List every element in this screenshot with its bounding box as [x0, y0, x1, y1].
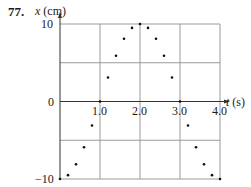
x-axis-var: t	[226, 95, 229, 109]
x-axis-label: t (s)	[226, 95, 245, 110]
y-tick-neg10: −10	[35, 172, 54, 187]
x-tick-2: 2.0	[132, 104, 147, 119]
x-axis-unit: (s)	[232, 95, 245, 109]
y-axis-var: x	[35, 4, 40, 18]
problem-number: 77.	[8, 4, 24, 20]
y-axis-unit: (cm)	[43, 4, 66, 18]
y-tick-10: 10	[41, 17, 53, 32]
chart-plot-area	[0, 0, 251, 187]
y-tick-0: 0	[48, 95, 54, 110]
x-tick-4: 4.0	[212, 104, 227, 119]
x-tick-3: 3.0	[172, 104, 187, 119]
axes	[58, 12, 230, 180]
x-tick-1: 1.0	[92, 104, 107, 119]
